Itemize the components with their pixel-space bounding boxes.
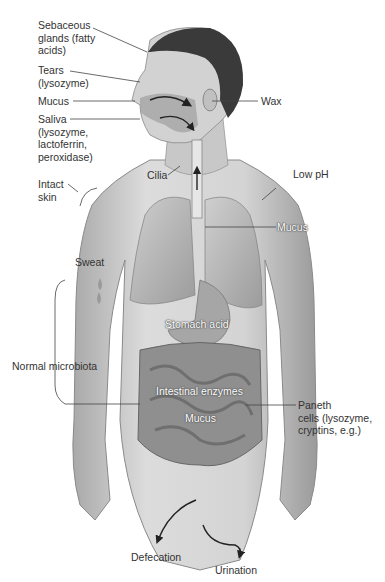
body-barriers-diagram: Sebaceous glands (fatty acids) Tears (ly… — [0, 0, 385, 582]
label-urination: Urination — [215, 564, 257, 577]
label-paneth-cells: Paneth cells (lysozyme, cryptins, e.g.) — [298, 399, 372, 437]
label-intact-skin: Intact skin — [38, 178, 64, 203]
label-cilia: Cilia — [147, 169, 167, 182]
label-mucus-nose: Mucus — [38, 95, 69, 108]
label-sweat: Sweat — [75, 256, 104, 269]
label-mucus-gut: Mucus — [185, 412, 216, 425]
label-stomach-acid: Stomach acid — [165, 318, 229, 331]
label-defecation: Defecation — [131, 551, 181, 564]
label-low-ph: Low pH — [293, 168, 329, 181]
label-intestinal-enzymes: Intestinal enzymes — [156, 385, 243, 398]
label-tears: Tears (lysozyme) — [38, 64, 89, 89]
label-wax: Wax — [261, 95, 282, 108]
label-normal-microbiota: Normal microbiota — [12, 360, 97, 373]
label-saliva: Saliva (lysozyme, lactoferrin, peroxidas… — [38, 113, 93, 163]
label-mucus-lung: Mucus — [277, 221, 308, 234]
ear-shape — [203, 89, 217, 111]
label-sebaceous-glands: Sebaceous glands (fatty acids) — [38, 19, 95, 57]
